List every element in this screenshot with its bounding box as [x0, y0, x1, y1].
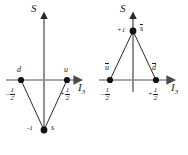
right-value-dbar: + 1 2 — [148, 85, 158, 102]
left-value-d: – 1 2 — [6, 85, 15, 102]
left-state-u-label: u — [64, 66, 68, 74]
left-value-u-denominator: 2 — [65, 95, 71, 102]
left-point-d — [18, 77, 24, 83]
right-value-dbar-fraction: 1 2 — [153, 87, 159, 102]
right-edge-dbar-sbar — [133, 31, 156, 80]
right-state-ubar-label: u — [105, 64, 109, 72]
sbar-overline-wrap: s — [140, 25, 143, 33]
left-state-s-label: s — [51, 124, 54, 132]
dbar-overline — [152, 63, 156, 64]
right-point-sbar — [130, 28, 137, 35]
left-point-u — [64, 77, 70, 83]
right-point-ubar — [107, 77, 113, 83]
right-state-ubar-letter: u — [105, 63, 109, 72]
left-point-s — [41, 127, 48, 134]
ubar-overline-wrap: u — [105, 64, 109, 72]
right-value-ubar-denominator: 2 — [105, 95, 111, 102]
sbar-overline — [140, 24, 143, 25]
right-edge-ubar-sbar — [110, 31, 133, 80]
right-value-ubar-fraction: 1 2 — [105, 87, 111, 102]
right-state-dbar-letter: d — [152, 63, 156, 72]
right-state-sbar-letter: s — [140, 24, 143, 33]
left-value-u-fraction: 1 2 — [65, 87, 71, 102]
left-edge-d-s — [21, 80, 44, 130]
left-value-d-fraction: 1 2 — [10, 87, 16, 102]
left-i3-axis-label: I3 — [78, 82, 85, 96]
right-value-ubar: – 1 2 — [101, 85, 110, 102]
right-i3-axis-label: I3 — [171, 82, 178, 96]
ubar-overline — [105, 63, 109, 64]
right-value-sbar: +1 — [117, 27, 125, 34]
dbar-overline-wrap: d — [152, 64, 156, 72]
right-state-sbar-label: s — [140, 25, 143, 33]
right-value-dbar-denominator: 2 — [153, 95, 159, 102]
left-s-axis-label: S — [31, 3, 37, 14]
left-value-u: + 1 2 — [60, 85, 70, 102]
figure-canvas: S I3 d u s – 1 2 + 1 2 -1 S I3 u d s — [0, 0, 188, 155]
left-panel-group — [6, 18, 75, 133]
left-i3-axis-subscript: 3 — [82, 88, 86, 96]
right-point-dbar — [153, 77, 159, 83]
right-s-axis-label: S — [120, 3, 126, 14]
right-panel-group — [99, 18, 168, 92]
right-state-dbar-label: d — [152, 64, 156, 72]
left-value-s: -1 — [27, 125, 33, 132]
left-state-d-label: d — [17, 66, 21, 74]
right-i3-axis-subscript: 3 — [175, 88, 179, 96]
left-value-d-denominator: 2 — [10, 95, 16, 102]
